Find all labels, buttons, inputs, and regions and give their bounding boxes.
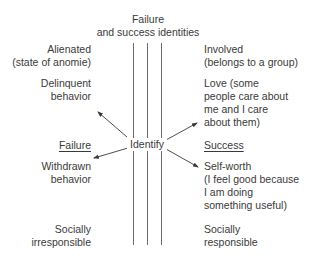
- text-line: Love (some: [204, 77, 288, 90]
- text-line: (state of anomie): [12, 56, 91, 69]
- text-line: (I feel good because: [204, 173, 299, 186]
- arrow-to-self-worth: [166, 149, 198, 167]
- text-line: behavior: [41, 173, 91, 186]
- success-item-responsible: Socially responsible: [204, 223, 258, 249]
- text-line: irresponsible: [31, 236, 91, 249]
- title-line-2: and success identities: [0, 26, 296, 39]
- text-line: Socially: [31, 223, 91, 236]
- text-line: Involved: [204, 43, 298, 56]
- text-line: something useful): [204, 199, 299, 212]
- failure-item-alienated: Alienated (state of anomie): [12, 43, 91, 69]
- text-line: Withdrawn: [41, 160, 91, 173]
- failure-item-irresponsible: Socially irresponsible: [31, 223, 91, 249]
- text-line: Socially: [204, 223, 258, 236]
- text-line: Delinquent: [41, 77, 91, 90]
- text-line: about them): [204, 116, 288, 129]
- arrow-to-delinquent: [98, 112, 127, 137]
- success-heading: Success: [204, 139, 244, 152]
- success-item-involved: Involved (belongs to a group): [204, 43, 298, 69]
- identify-label: Identify: [127, 138, 167, 151]
- diagram-title: Failure and success identities: [0, 13, 296, 39]
- success-item-self-worth: Self-worth (I feel good because I am doi…: [204, 160, 299, 212]
- text-line: I am doing: [204, 186, 299, 199]
- text-line: behavior: [41, 90, 91, 103]
- title-line-1: Failure: [0, 13, 296, 26]
- text-line: people care about: [204, 90, 288, 103]
- text-line: responsible: [204, 236, 258, 249]
- text-line: Self-worth: [204, 160, 299, 173]
- text-line: Alienated: [12, 43, 91, 56]
- failure-heading: Failure: [59, 139, 91, 152]
- failure-item-withdrawn: Withdrawn behavior: [41, 160, 91, 186]
- arrow-to-withdrawn: [94, 148, 128, 158]
- success-item-love: Love (some people care about me and I ca…: [204, 77, 288, 129]
- text-line: me and I care: [204, 103, 288, 116]
- text-line: (belongs to a group): [204, 56, 298, 69]
- failure-item-delinquent: Delinquent behavior: [41, 77, 91, 103]
- arrow-to-love: [166, 123, 197, 140]
